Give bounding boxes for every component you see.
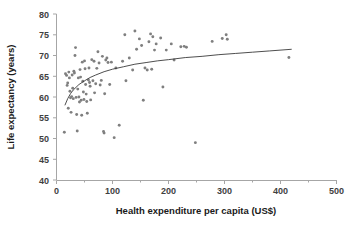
data-point xyxy=(151,35,154,38)
x-tick-label: 500 xyxy=(329,186,344,196)
data-point xyxy=(66,81,69,84)
data-point xyxy=(67,107,70,110)
x-tick-label: 400 xyxy=(273,186,288,196)
x-tick-label: 200 xyxy=(161,186,176,196)
data-point xyxy=(118,124,121,127)
scatter-plot-figure: 80 75 70 65 60 55 50 45 40 0 100 200 300… xyxy=(0,0,350,226)
data-point xyxy=(146,69,149,72)
data-point xyxy=(107,61,110,64)
data-point xyxy=(94,82,97,85)
data-point xyxy=(85,93,88,96)
data-point xyxy=(99,84,102,87)
data-point xyxy=(150,68,153,71)
data-point xyxy=(194,141,197,144)
data-point xyxy=(147,40,150,43)
data-point xyxy=(89,85,92,88)
y-tick-label: 65 xyxy=(39,72,49,82)
data-point xyxy=(91,79,94,82)
data-point xyxy=(74,46,77,49)
data-point xyxy=(159,37,162,40)
data-point xyxy=(155,42,158,45)
y-tick-label: 55 xyxy=(39,113,49,123)
data-point xyxy=(100,79,103,82)
data-point xyxy=(185,46,188,49)
data-point xyxy=(98,62,101,65)
x-axis-ticks xyxy=(57,181,337,185)
x-tick-label: 300 xyxy=(217,186,232,196)
data-point xyxy=(124,79,127,82)
data-point xyxy=(138,37,141,40)
data-point xyxy=(82,98,85,101)
data-point xyxy=(79,76,82,79)
data-point xyxy=(65,74,68,77)
data-point xyxy=(89,98,92,101)
y-axis-ticks xyxy=(53,14,57,180)
data-point xyxy=(82,91,85,94)
data-point xyxy=(93,60,96,63)
chart-canvas: 80 75 70 65 60 55 50 45 40 0 100 200 300… xyxy=(0,0,350,226)
data-point xyxy=(101,55,104,58)
data-point xyxy=(88,81,91,84)
data-point xyxy=(75,96,78,99)
data-point xyxy=(80,114,83,117)
y-axis-title: Life expectancy (years) xyxy=(5,44,16,149)
data-point xyxy=(73,71,76,74)
data-point xyxy=(85,100,88,103)
data-point xyxy=(133,30,136,33)
data-point xyxy=(170,42,173,45)
data-point xyxy=(72,97,75,100)
data-point xyxy=(77,96,80,99)
data-point xyxy=(68,76,71,79)
data-point xyxy=(95,67,98,70)
data-point xyxy=(103,92,106,95)
data-point xyxy=(144,67,147,70)
data-point xyxy=(287,56,290,59)
data-point xyxy=(108,83,111,86)
y-tick-label: 75 xyxy=(39,30,49,40)
data-point xyxy=(103,132,106,135)
y-tick-label: 70 xyxy=(39,51,49,61)
data-point xyxy=(121,60,124,63)
data-point xyxy=(71,74,74,77)
trendline xyxy=(65,49,292,105)
data-point xyxy=(128,57,131,60)
y-tick-label: 80 xyxy=(39,10,49,20)
y-tick-label: 60 xyxy=(39,93,49,103)
data-point xyxy=(110,61,113,64)
y-tick-label: 40 xyxy=(39,176,49,186)
data-point xyxy=(76,130,79,133)
data-point xyxy=(86,112,89,115)
data-point xyxy=(221,37,224,40)
data-point xyxy=(66,84,69,87)
data-point xyxy=(74,54,77,57)
data-point xyxy=(75,113,78,116)
data-point xyxy=(63,131,66,134)
data-point xyxy=(140,44,143,47)
data-point xyxy=(96,50,99,53)
data-point xyxy=(161,86,164,89)
data-point xyxy=(76,88,79,91)
data-point xyxy=(113,136,116,139)
data-point xyxy=(84,67,87,70)
data-point xyxy=(211,40,214,43)
x-tick-label: 0 xyxy=(54,186,59,196)
data-point xyxy=(93,91,96,94)
data-point xyxy=(79,68,82,71)
data-point xyxy=(123,33,126,36)
data-point xyxy=(131,69,134,72)
data-point-group xyxy=(63,30,290,145)
data-point xyxy=(80,99,83,102)
data-point xyxy=(225,33,228,36)
x-axis-tick-labels: 0 100 200 300 400 500 xyxy=(54,186,344,196)
data-point xyxy=(149,32,152,35)
data-point xyxy=(153,49,156,52)
y-tick-label: 45 xyxy=(39,155,49,165)
data-point xyxy=(226,38,229,41)
data-point xyxy=(135,48,138,51)
data-point xyxy=(165,49,168,52)
data-point xyxy=(105,57,108,60)
data-point xyxy=(68,90,71,93)
x-tick-label: 100 xyxy=(105,186,120,196)
data-point xyxy=(67,71,70,74)
x-axis-title: Health expenditure per capita (US$) xyxy=(116,205,276,216)
